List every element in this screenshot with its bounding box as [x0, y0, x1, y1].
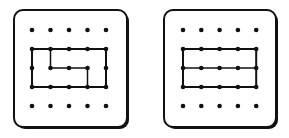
peg — [30, 28, 35, 33]
peg — [48, 66, 53, 71]
peg — [254, 66, 259, 71]
peg — [48, 28, 53, 33]
peg — [85, 104, 90, 109]
peg — [217, 66, 222, 71]
peg — [104, 85, 109, 90]
peg — [48, 104, 53, 109]
peg — [181, 85, 186, 90]
peg — [30, 66, 35, 71]
peg — [199, 47, 204, 52]
peg — [30, 104, 35, 109]
peg — [199, 66, 204, 71]
peg — [254, 28, 259, 33]
peg — [67, 104, 72, 109]
peg — [104, 104, 109, 109]
peg — [85, 47, 90, 52]
peg — [67, 47, 72, 52]
peg — [254, 47, 259, 52]
peg — [181, 47, 186, 52]
peg — [217, 47, 222, 52]
peg — [85, 66, 90, 71]
peg — [67, 85, 72, 90]
peg — [104, 28, 109, 33]
left-geoboard — [14, 10, 129, 129]
peg — [217, 28, 222, 33]
peg — [48, 47, 53, 52]
peg — [236, 47, 241, 52]
peg — [181, 66, 186, 71]
peg — [85, 28, 90, 33]
peg — [181, 104, 186, 109]
peg — [236, 85, 241, 90]
peg — [30, 85, 35, 90]
peg — [236, 66, 241, 71]
peg — [199, 104, 204, 109]
peg — [217, 85, 222, 90]
peg — [48, 85, 53, 90]
peg — [199, 85, 204, 90]
peg — [67, 28, 72, 33]
peg — [236, 104, 241, 109]
right-geoboard — [164, 10, 278, 129]
peg — [104, 47, 109, 52]
peg — [254, 104, 259, 109]
geoboard-figure — [0, 0, 289, 138]
peg — [30, 47, 35, 52]
peg — [181, 28, 186, 33]
peg — [217, 104, 222, 109]
peg — [254, 85, 259, 90]
peg — [104, 66, 109, 71]
peg — [236, 28, 241, 33]
peg — [199, 28, 204, 33]
peg — [85, 85, 90, 90]
peg — [67, 66, 72, 71]
